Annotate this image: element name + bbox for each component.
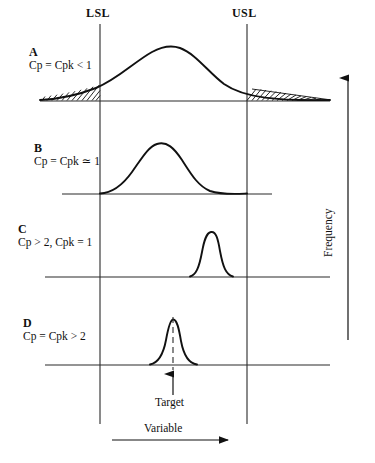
panel-c-label: C Cp > 2, Cpk = 1 <box>18 222 92 250</box>
panel-b-expression: Cp = Cpk ≃ 1 <box>34 155 100 169</box>
panel-b-letter: B <box>34 141 100 155</box>
panel-b-label: B Cp = Cpk ≃ 1 <box>34 141 100 169</box>
usl-label: USL <box>232 6 257 20</box>
panel-a-label: A Cp = Cpk < 1 <box>29 45 92 73</box>
frequency-axis-label: Frequency <box>322 208 334 257</box>
lsl-label: LSL <box>86 6 110 20</box>
panel-d-letter: D <box>23 316 86 330</box>
panel-d-label: D Cp = Cpk > 2 <box>23 316 86 344</box>
target-label: Target <box>155 396 184 410</box>
panel-d-expression: Cp = Cpk > 2 <box>23 330 86 344</box>
panel-a-letter: A <box>29 45 92 59</box>
axis-arrows <box>112 78 348 440</box>
panel-a-expression: Cp = Cpk < 1 <box>29 59 92 73</box>
process-capability-figure: LSL USL A Cp = Cpk < 1 B Cp = Cpk ≃ 1 C … <box>0 0 375 463</box>
panel-a-left-tail-hatch <box>42 85 100 100</box>
panel-c-curve <box>190 232 233 277</box>
panel-c-letter: C <box>18 222 92 236</box>
panel-d-plot <box>45 317 330 395</box>
panel-b-curve <box>100 143 247 194</box>
panel-c-expression: Cp > 2, Cpk = 1 <box>18 236 92 250</box>
variable-axis-label: Variable <box>144 422 182 436</box>
